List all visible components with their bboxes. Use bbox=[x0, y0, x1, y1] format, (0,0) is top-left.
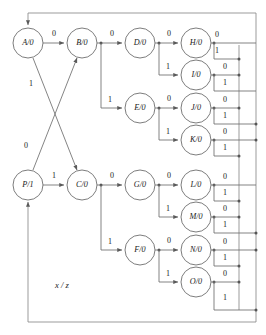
node-label-G: G/0 bbox=[134, 180, 146, 189]
edge-label-B-D: 0 bbox=[110, 29, 114, 38]
node-J[interactable]: J/0 bbox=[181, 93, 211, 123]
edge-label-O-0: 0 bbox=[223, 269, 227, 278]
edge-label-K-1: 1 bbox=[223, 143, 227, 152]
edge-label-J-0: 0 bbox=[223, 95, 227, 104]
edge-label-G-M: 1 bbox=[166, 204, 170, 213]
node-label-D: D/0 bbox=[133, 38, 146, 47]
edge-label-K-0: 0 bbox=[223, 127, 227, 136]
junction-dot-I-bus0 bbox=[238, 74, 241, 77]
edge-label-A-C: 1 bbox=[29, 79, 33, 88]
edge-label-M-1: 1 bbox=[223, 220, 227, 229]
edge-label-N-0: 0 bbox=[223, 237, 227, 246]
node-O[interactable]: O/0 bbox=[181, 267, 211, 297]
edge-label-G-L: 0 bbox=[167, 171, 171, 180]
node-G[interactable]: G/0 bbox=[125, 170, 155, 200]
edge-label-P-C: 1 bbox=[52, 171, 56, 180]
edge-label-H-0: 0 bbox=[215, 30, 219, 39]
node-label-F: F/0 bbox=[133, 245, 145, 254]
junction-dot-J-bus0 bbox=[238, 107, 241, 110]
node-D[interactable]: D/0 bbox=[125, 28, 155, 58]
edge-label-D-H: 0 bbox=[167, 29, 171, 38]
node-H[interactable]: H/0 bbox=[181, 28, 211, 58]
node-label-M: M/0 bbox=[188, 212, 202, 221]
node-F[interactable]: F/0 bbox=[125, 235, 155, 265]
junction-dot-O-bus0 bbox=[238, 281, 241, 284]
node-B[interactable]: B/0 bbox=[67, 28, 97, 58]
junction-dot-L-bus1 bbox=[238, 200, 241, 203]
edge-label-L-1: 1 bbox=[223, 188, 227, 197]
node-label-J: J/0 bbox=[191, 103, 201, 112]
node-label-I: I/0 bbox=[190, 70, 200, 79]
junction-dot-K-bus0 bbox=[255, 139, 258, 142]
edge-J-return-1 bbox=[214, 108, 256, 124]
edge-label-J-1: 1 bbox=[223, 111, 227, 120]
junction-dot-N-bus1 bbox=[238, 265, 241, 268]
fsm-canvas: 0 1 0 1 0 1 0 1 0 1 0 1 0 1 0 1 0 1 0 bbox=[0, 0, 266, 335]
junction-dot-M-bus0 bbox=[238, 216, 241, 219]
feedback-rail-to-A bbox=[28, 13, 256, 25]
node-L[interactable]: L/0 bbox=[181, 170, 211, 200]
edge-label-I-1: 1 bbox=[223, 78, 227, 87]
node-A[interactable]: A/0 bbox=[13, 28, 43, 58]
edge-label-F-O: 1 bbox=[166, 269, 170, 278]
edge-label-I-0: 0 bbox=[223, 62, 227, 71]
node-label-O: O/0 bbox=[190, 277, 202, 286]
edge-label-P-B: 0 bbox=[24, 141, 28, 150]
node-P[interactable]: P/1 bbox=[13, 170, 43, 200]
edge-label-O-1: 1 bbox=[223, 293, 227, 302]
node-label-B: B/0 bbox=[76, 38, 87, 47]
edge-label-L-0: 0 bbox=[223, 172, 227, 181]
node-label-C: C/0 bbox=[76, 180, 88, 189]
legend-notation-label: x / z bbox=[54, 280, 69, 290]
node-label-E: E/0 bbox=[133, 103, 145, 112]
edge-label-H-1: 1 bbox=[215, 46, 219, 55]
node-N[interactable]: N/0 bbox=[181, 235, 211, 265]
edge-label-M-0: 0 bbox=[223, 204, 227, 213]
edge-label-D-I: 1 bbox=[166, 62, 170, 71]
junction-dot-M-bus1 bbox=[255, 232, 258, 235]
node-label-L: L/0 bbox=[190, 180, 202, 189]
node-label-N: N/0 bbox=[189, 245, 202, 254]
junction-dot-H-bus bbox=[238, 58, 241, 61]
edge-M-return-1 bbox=[214, 217, 256, 233]
edge-I-return-1 bbox=[214, 75, 256, 91]
junction-dot-N-bus0 bbox=[255, 249, 258, 252]
node-C[interactable]: C/0 bbox=[67, 170, 97, 200]
edge-label-A-B: 0 bbox=[52, 29, 56, 38]
edge-label-B-E: 1 bbox=[108, 95, 112, 104]
edge-label-E-K: 1 bbox=[166, 127, 170, 136]
edge-label-E-J: 0 bbox=[167, 94, 171, 103]
node-I[interactable]: I/0 bbox=[181, 60, 211, 90]
node-label-A: A/0 bbox=[21, 38, 33, 47]
junction-dot-K-bus1 bbox=[238, 155, 241, 158]
edge-label-C-G: 0 bbox=[110, 171, 114, 180]
state-diagram-container: 0 1 0 1 0 1 0 1 0 1 0 1 0 1 0 1 0 1 0 bbox=[0, 0, 266, 335]
node-M[interactable]: M/0 bbox=[181, 202, 211, 232]
node-label-P: P/1 bbox=[21, 180, 33, 189]
node-label-K: K/0 bbox=[189, 135, 202, 144]
edge-label-C-F: 1 bbox=[108, 237, 112, 246]
junction-dot-J-bus1 bbox=[255, 123, 258, 126]
node-E[interactable]: E/0 bbox=[125, 93, 155, 123]
edge-label-N-1: 1 bbox=[223, 253, 227, 262]
edge-label-F-N: 0 bbox=[167, 236, 171, 245]
edge-O-return-1 bbox=[214, 282, 256, 310]
junction-dot-O-bus1 bbox=[255, 309, 258, 312]
node-K[interactable]: K/0 bbox=[181, 125, 211, 155]
node-label-H: H/0 bbox=[189, 38, 202, 47]
